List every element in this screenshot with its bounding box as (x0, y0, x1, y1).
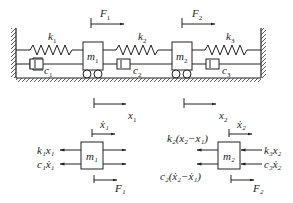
fbd2-spring-force-right: k₃x₂ (264, 145, 281, 156)
label-x2: x2 (219, 110, 227, 124)
fbd1-velocity: ẋ₁ (100, 119, 109, 130)
right-wall (261, 28, 266, 78)
fbd1-force: F₁ (115, 183, 126, 194)
label-m1: m1 (87, 51, 98, 65)
spring-k2 (103, 45, 172, 55)
fbd2-spring-force-left: k₂(x₂−x₁) (167, 133, 208, 144)
fbd1-spring-force: k₁x₁ (37, 145, 54, 156)
fbd2-force: F₂ (253, 183, 264, 194)
label-k3: k3 (226, 31, 234, 45)
fbd1-mass: m₁ (86, 151, 98, 162)
fbd2-damper-force-left: c₂(ẋ₂−ẋ₁) (160, 171, 201, 182)
fbd2-velocity: ẋ₂ (237, 119, 246, 130)
label-F1: F1 (100, 8, 110, 22)
fbd2-damper-force-right: c₃ẋ₂ (264, 159, 281, 170)
label-F2: F2 (192, 8, 202, 22)
diagram-graphics (0, 0, 293, 203)
label-k2: k2 (138, 31, 146, 45)
spring-k1 (16, 45, 83, 55)
label-c2: c2 (133, 65, 141, 79)
fbd2-mass: m₂ (223, 151, 235, 162)
label-c1: c1 (44, 65, 52, 79)
left-wall (11, 28, 16, 78)
label-x1: x1 (128, 110, 136, 124)
mechanical-system-diagram: F1 F2 k1 k2 k3 c1 c2 c3 m1 m2 x1 x2 ẋ₁ m… (0, 0, 293, 203)
label-m2: m2 (176, 51, 187, 65)
spring-k3 (192, 45, 261, 55)
label-c3: c3 (222, 65, 230, 79)
fbd1-damper-force: c₁ẋ₁ (37, 159, 54, 170)
label-k1: k1 (48, 31, 56, 45)
